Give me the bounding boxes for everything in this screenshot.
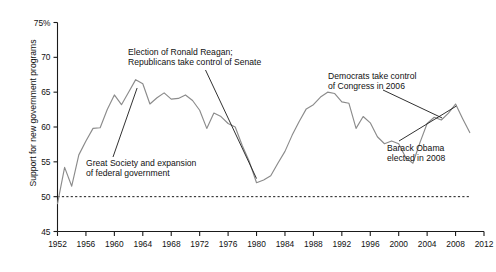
x-tick-label: 1968	[162, 239, 181, 249]
x-tick-label: 1960	[105, 239, 124, 249]
y-tick-label: 75%	[34, 18, 51, 28]
x-tick-label: 1964	[133, 239, 152, 249]
annotation-obama: Barack Obama elected in 2008	[387, 143, 445, 164]
annotation-reagan: Election of Ronald Reagan; Republicans t…	[128, 47, 261, 68]
annotation-leader	[383, 90, 442, 118]
x-tick-label: 1992	[333, 239, 352, 249]
x-tick-label: 1980	[247, 239, 266, 249]
chart-figure: Support for new government programs 4550…	[0, 0, 496, 272]
x-tick-label: 1956	[77, 239, 96, 249]
y-tick-label: 45	[41, 227, 51, 237]
x-tick-label: 2000	[389, 239, 408, 249]
x-tick-label: 1984	[276, 239, 295, 249]
x-tick-label: 1952	[48, 239, 67, 249]
line-chart-canvas: 45505560657075% 195219561960196419681972…	[0, 0, 496, 272]
annotation-leader	[206, 70, 257, 179]
y-axis-tick-group: 45505560657075%	[34, 18, 58, 237]
x-axis-tick-group: 1952195619601964196819721976198019841988…	[48, 232, 493, 249]
x-tick-label: 1996	[361, 239, 380, 249]
x-tick-label: 1976	[219, 239, 238, 249]
x-tick-label: 2008	[446, 239, 465, 249]
y-tick-label: 60	[41, 122, 51, 132]
x-tick-label: 2012	[475, 239, 494, 249]
x-tick-label: 2004	[418, 239, 437, 249]
data-series-line	[58, 80, 470, 204]
y-tick-label: 55	[41, 157, 51, 167]
y-tick-label: 65	[41, 87, 51, 97]
annotation-democrats-congress: Democrats take control of Congress in 20…	[328, 71, 416, 92]
y-tick-label: 50	[41, 192, 51, 202]
x-tick-label: 1972	[190, 239, 209, 249]
x-tick-label: 1988	[304, 239, 323, 249]
y-tick-label: 70	[41, 52, 51, 62]
annotation-great-society: Great Society and expansion of federal g…	[86, 158, 196, 179]
